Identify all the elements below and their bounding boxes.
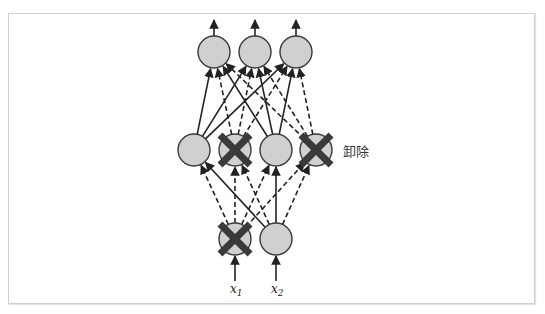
neurons [178,36,332,255]
edge-x1-h1 [201,165,228,224]
input-neuron-x2 [260,223,292,255]
edge-h4-o3 [299,69,312,135]
hidden-neuron-h3 [260,134,292,166]
input-label-x1: x1 [230,282,243,298]
output-neuron-o2 [239,36,271,68]
edge-h4-o1 [226,64,304,139]
output-neuron-o1 [198,36,230,68]
output-neuron-o3 [280,36,312,68]
edge-x2-h4 [283,166,309,225]
dropped-label: 卸除 [343,141,369,160]
hidden-neuron-h1 [178,134,210,166]
edge-h1-o1 [197,69,210,135]
network-diagram [0,0,545,314]
input-label-x2: x2 [271,282,284,298]
